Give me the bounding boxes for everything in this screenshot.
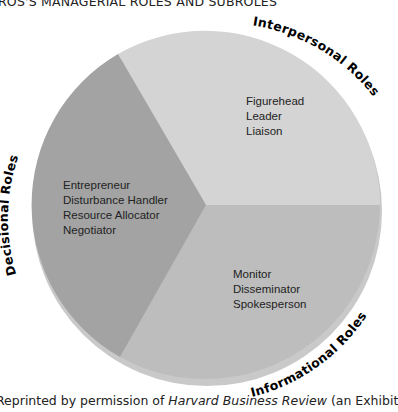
- figure-caption: Reprinted by permission of Harvard Busin…: [0, 393, 398, 408]
- subrole-figurehead: Figurehead: [246, 95, 304, 107]
- subrole-spokesperson: Spokesperson: [233, 298, 307, 310]
- roles-pie-diagram: Figurehead Leader Liaison Entrepreneur D…: [0, 0, 398, 412]
- caption-prefix: Reprinted by permission of: [0, 393, 168, 408]
- caption-suffix: (an Exhibit) from “The Manager’s Jo: [327, 393, 398, 408]
- subrole-monitor: Monitor: [233, 268, 272, 280]
- caption-journal: Harvard Business Review: [168, 393, 327, 408]
- subrole-resource-allocator: Resource Allocator: [63, 209, 160, 221]
- subrole-entrepreneur: Entrepreneur: [63, 179, 130, 191]
- subrole-disseminator: Disseminator: [233, 283, 300, 295]
- subrole-leader: Leader: [246, 110, 282, 122]
- subrole-negotiator: Negotiator: [63, 224, 116, 236]
- subrole-liaison: Liaison: [246, 125, 282, 137]
- subrole-disturbance-handler: Disturbance Handler: [63, 194, 168, 206]
- label-decisional-roles: Decisional Roles: [0, 152, 21, 277]
